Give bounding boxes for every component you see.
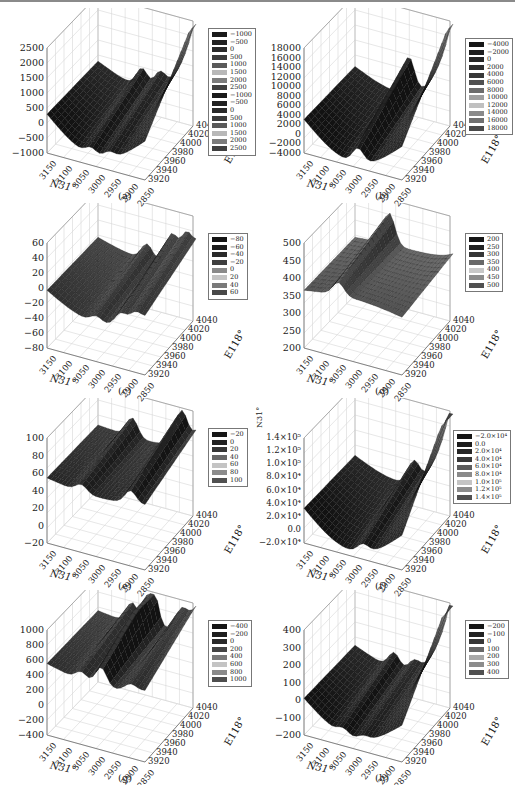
y-tick-label: 4020 <box>445 129 467 139</box>
y-tick-label: 3980 <box>172 729 194 739</box>
legend-entry: 100 <box>212 477 244 485</box>
y-tick-label: 3940 <box>413 165 435 175</box>
legend-entry: 500 <box>469 282 499 290</box>
panel-caption: (a) <box>118 190 132 201</box>
legend-swatch <box>469 670 484 675</box>
z-tick-label: 1500 <box>0 72 44 83</box>
z-tick-label: 1.2×10⁵ <box>241 445 301 455</box>
legend-swatch <box>469 57 484 62</box>
legend-swatch <box>457 449 472 454</box>
legend-swatch <box>212 447 227 452</box>
y-tick-label: 3960 <box>421 546 443 556</box>
legend-swatch <box>457 480 472 485</box>
surface-plot-e: 100806040200−203150310030503000295029002… <box>0 398 257 593</box>
legend-swatch <box>212 260 227 265</box>
z-tick-label: 600 <box>0 654 44 665</box>
legend-swatch <box>212 275 227 280</box>
legend-swatch <box>469 237 484 242</box>
y-tick-label: 3940 <box>156 747 178 757</box>
legend-entry: −20 <box>212 431 244 439</box>
legend-swatch <box>457 457 472 462</box>
surface-plot-b: 1800016000140001200010000800060004000200… <box>257 8 514 203</box>
legend-swatch <box>469 95 484 100</box>
z-tick-label: 2.0×10⁴ <box>241 511 301 521</box>
legend-swatch <box>212 47 227 52</box>
z-tick-label: −20 <box>0 537 44 548</box>
legend-entry: 0 <box>212 266 244 274</box>
legend-label: 500 <box>487 282 499 290</box>
y-tick-label: 4000 <box>437 138 459 148</box>
legend-swatch <box>469 80 484 85</box>
z-tick-label: 0.0 <box>241 524 301 534</box>
y-tick-label: 4000 <box>180 528 202 538</box>
y-tick-label: 4020 <box>445 711 467 721</box>
z-tick-label: 4.0×10⁴ <box>241 498 301 508</box>
legend-swatch <box>212 85 227 90</box>
panel-caption: (d) <box>375 385 389 396</box>
y-tick-label: 4020 <box>188 519 210 529</box>
legend-swatch <box>212 237 227 242</box>
legend-swatch <box>212 131 227 136</box>
z-tick-label: −200 <box>0 714 44 725</box>
legend-swatch <box>212 455 227 460</box>
legend-swatch <box>457 442 472 447</box>
legend-swatch <box>469 252 484 257</box>
y-tick-label: 3940 <box>156 165 178 175</box>
legend-swatch <box>469 50 484 55</box>
legend-swatch <box>212 252 227 257</box>
legend-entry: 40 <box>212 454 244 462</box>
z-tick-label: 450 <box>251 255 301 266</box>
colorbar-legend: −4000−2000020004000600080001000012000140… <box>465 38 513 135</box>
y-tick-label: 4000 <box>437 720 459 730</box>
y-tick-label: 4040 <box>453 315 475 325</box>
y-tick-label: 4020 <box>188 129 210 139</box>
y-tick-label: 4000 <box>437 333 459 343</box>
legend-swatch <box>212 662 227 667</box>
legend-swatch <box>469 111 484 116</box>
colorbar-legend: −400−20002004006008001000 <box>208 620 252 687</box>
y-tick-label: 3980 <box>429 729 451 739</box>
z-tick-label: 250 <box>251 325 301 336</box>
z-tick-label: 80 <box>0 450 44 461</box>
legend-swatch <box>212 632 227 637</box>
z-tick-label: 0 <box>0 520 44 531</box>
legend-entry: 400 <box>469 669 505 677</box>
legend-swatch <box>212 290 227 295</box>
colorbar-legend: −80−60−40−200204060 <box>208 233 248 300</box>
panel-caption: (h) <box>375 772 389 783</box>
y-tick-label: 3920 <box>148 756 170 766</box>
legend-swatch <box>457 465 472 470</box>
y-tick-label: 3920 <box>405 564 427 574</box>
y-tick-label: 4020 <box>445 519 467 529</box>
legend-swatch <box>212 93 227 98</box>
legend-swatch <box>212 440 227 445</box>
y-tick-label: 3960 <box>164 156 186 166</box>
y-tick-label: 3940 <box>413 360 435 370</box>
z-tick-label: 400 <box>251 272 301 283</box>
z-tick-label: 300 <box>251 307 301 318</box>
colorbar-legend: −200−1000100200300400 <box>465 620 509 679</box>
legend-entry: 0 <box>212 439 244 447</box>
legend-swatch <box>212 123 227 128</box>
legend-swatch <box>469 275 484 280</box>
legend-swatch <box>212 639 227 644</box>
legend-swatch <box>212 670 227 675</box>
y-tick-label: 3920 <box>405 756 427 766</box>
z-tick-label: 100 <box>0 432 44 443</box>
z-tick-label: −40 <box>0 312 44 323</box>
legend-swatch <box>469 647 484 652</box>
legend-swatch <box>469 245 484 250</box>
y-tick-label: 3940 <box>156 360 178 370</box>
legend-swatch <box>469 639 484 644</box>
legend-swatch <box>212 55 227 60</box>
panel-caption: (c) <box>118 385 131 396</box>
surface-plot-d: 5004504003503002502003150310030503000295… <box>257 203 514 398</box>
surface-plot-a: 25002000150010005000−500−100031503100305… <box>0 8 257 203</box>
surface-plot-g: 10008006004002000−200−400315031003050300… <box>0 590 257 785</box>
surface-plot-f: 1.4×10⁵1.2×10⁵1.0×10⁵8.0×10⁴6.0×10⁴4.0×1… <box>257 398 514 593</box>
legend-swatch <box>469 662 484 667</box>
legend-swatch <box>212 116 227 121</box>
y-tick-label: 3920 <box>405 369 427 379</box>
surface-plot-h: 4003002001000−100−2003150310030503000295… <box>257 590 514 785</box>
z-tick-label: −200 <box>251 729 301 740</box>
